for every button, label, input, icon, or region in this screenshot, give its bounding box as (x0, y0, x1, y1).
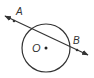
label-o: O (32, 42, 41, 54)
point-a-dot (13, 20, 16, 23)
label-b: B (73, 35, 80, 46)
label-a: A (15, 6, 23, 17)
point-b-dot (76, 49, 79, 52)
center-o-dot (45, 47, 48, 50)
geometry-diagram: A B O (0, 0, 94, 78)
